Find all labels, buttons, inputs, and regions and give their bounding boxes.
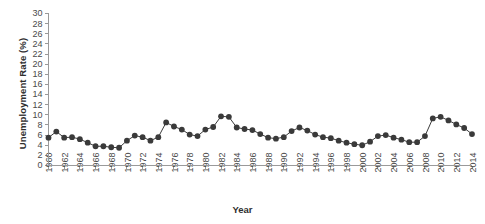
data-point (124, 138, 130, 144)
data-point (265, 135, 271, 141)
data-point (336, 138, 342, 144)
data-point (250, 127, 256, 133)
data-point (187, 132, 193, 138)
x-tick-label: 2000 (358, 152, 368, 172)
data-point (469, 131, 475, 137)
x-tick-label: 1980 (201, 152, 211, 172)
data-point (406, 139, 412, 145)
x-tick-label: 1964 (75, 152, 85, 172)
y-tick-label: 28 (32, 19, 42, 29)
x-tick-label-group: 1960196219641966196819701972197419761978… (44, 152, 478, 172)
data-point (85, 140, 91, 146)
data-point (69, 134, 75, 140)
data-point (155, 134, 161, 140)
y-tick-label: 4 (37, 140, 42, 150)
y-tick-label: 14 (32, 89, 42, 99)
data-point (242, 126, 248, 132)
data-point (226, 114, 232, 120)
data-point (391, 135, 397, 141)
x-tick-label: 2012 (452, 152, 462, 172)
x-tick-label: 1984 (232, 152, 242, 172)
y-tick-label: 24 (32, 39, 42, 49)
x-tick-label: 1986 (248, 152, 258, 172)
data-point (453, 122, 459, 128)
data-point (108, 144, 114, 150)
y-tick-label: 16 (32, 79, 42, 89)
data-point (289, 128, 295, 134)
data-point (414, 139, 420, 145)
x-tick-label: 1982 (217, 152, 227, 172)
x-tick-label: 1998 (342, 152, 352, 172)
x-tick-label: 1962 (60, 152, 70, 172)
data-point (359, 142, 365, 148)
data-point (101, 143, 107, 149)
data-point (195, 133, 201, 139)
data-point (77, 136, 83, 142)
data-point (46, 135, 52, 141)
x-tick-label: 2002 (373, 152, 383, 172)
y-tick-label: 0 (37, 160, 42, 170)
x-tick-label: 1960 (44, 152, 54, 172)
y-tick-mark-group (45, 14, 49, 166)
y-tick-label: 12 (32, 100, 42, 110)
y-tick-label: 30 (32, 8, 42, 18)
x-tick-label: 1976 (170, 152, 180, 172)
x-tick-label: 2006 (405, 152, 415, 172)
x-tick-label: 1974 (154, 152, 164, 172)
y-tick-label-group: 024681012141618202224262830 (32, 8, 42, 170)
data-point (351, 141, 357, 147)
y-tick-label: 8 (37, 120, 42, 130)
y-tick-label: 20 (32, 59, 42, 69)
data-point (257, 131, 263, 137)
data-point (163, 120, 169, 126)
data-point (312, 132, 318, 138)
x-tick-label: 1990 (279, 152, 289, 172)
y-tick-label: 26 (32, 29, 42, 39)
x-tick-label: 1970 (123, 152, 133, 172)
data-point (461, 125, 467, 131)
data-point (116, 145, 122, 151)
data-point (383, 132, 389, 138)
data-point (344, 140, 350, 146)
data-point (446, 118, 452, 124)
data-point (234, 125, 240, 131)
data-point (273, 136, 279, 142)
chart-plot-area: 024681012141618202224262830 196019621964… (0, 0, 485, 224)
x-tick-label: 1996 (326, 152, 336, 172)
x-tick-label: 1966 (91, 152, 101, 172)
x-tick-label: 1988 (264, 152, 274, 172)
x-tick-label: 1972 (138, 152, 148, 172)
y-tick-label: 22 (32, 49, 42, 59)
x-tick-label: 2014 (468, 152, 478, 172)
x-tick-label: 1968 (107, 152, 117, 172)
data-point (438, 114, 444, 120)
data-point (53, 129, 59, 135)
data-point (367, 139, 373, 145)
x-tick-label: 1992 (295, 152, 305, 172)
data-point (328, 135, 334, 141)
y-tick-label: 2 (37, 150, 42, 160)
x-axis-title: Year (0, 204, 485, 215)
data-point (93, 143, 99, 149)
x-tick-label: 1994 (311, 152, 321, 172)
data-point (281, 134, 287, 140)
unemployment-rate-chart: Unemployment Rate (%) 024681012141618202… (0, 0, 485, 224)
data-point (304, 128, 310, 134)
data-point (132, 133, 138, 139)
data-point (179, 127, 185, 133)
data-point (399, 137, 405, 143)
data-point (422, 133, 428, 139)
data-point (218, 113, 224, 119)
x-tick-label: 2004 (389, 152, 399, 172)
series-marker-group (46, 113, 475, 150)
data-point (202, 127, 208, 133)
data-point (375, 133, 381, 139)
x-tick-label: 2008 (421, 152, 431, 172)
y-tick-label: 18 (32, 69, 42, 79)
y-tick-label: 6 (37, 130, 42, 140)
y-tick-label: 10 (32, 110, 42, 120)
data-point (148, 138, 154, 144)
data-point (430, 115, 436, 121)
x-tick-label: 2010 (436, 152, 446, 172)
data-point (210, 124, 216, 130)
